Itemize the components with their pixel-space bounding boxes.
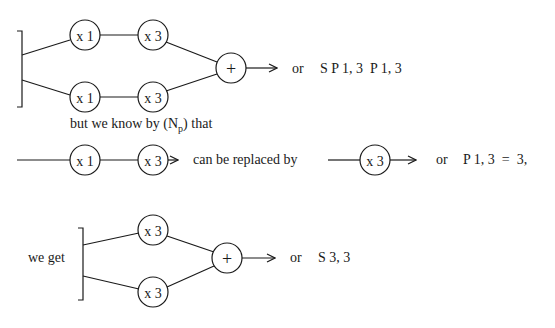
node-label: x 1 [76, 91, 94, 106]
row2-expression: P 1, 3 = 3, [463, 153, 527, 167]
row2-or: or [436, 153, 448, 167]
caption: but we know by (Np) that [70, 117, 212, 134]
diagram3-bracket [78, 228, 83, 300]
caption-text: ) that [183, 116, 212, 131]
diagram3-expression: S 3, 3 [318, 251, 350, 265]
node-label: x 3 [144, 286, 162, 301]
diagram1-or: or [292, 62, 304, 76]
node-label: x 3 [144, 29, 162, 44]
node-label: x 3 [144, 224, 162, 239]
plus-label: + [226, 59, 236, 79]
node-label: x 3 [366, 154, 384, 169]
diagram1-expression: S P 1, 3 P 1, 3 [320, 62, 402, 76]
diagram3-lead: we get [28, 251, 65, 265]
diagram3-network [78, 215, 275, 307]
caption-text: but we know by (N [70, 116, 178, 131]
node-label: x 1 [76, 29, 94, 44]
node-label: x 3 [144, 154, 162, 169]
diagram1-bracket [17, 31, 22, 107]
node-label: x 3 [144, 91, 162, 106]
row2-middle-text: can be replaced by [193, 153, 298, 167]
plus-label: + [222, 249, 232, 269]
node-label: x 1 [76, 154, 94, 169]
diagram3-or: or [290, 251, 302, 265]
